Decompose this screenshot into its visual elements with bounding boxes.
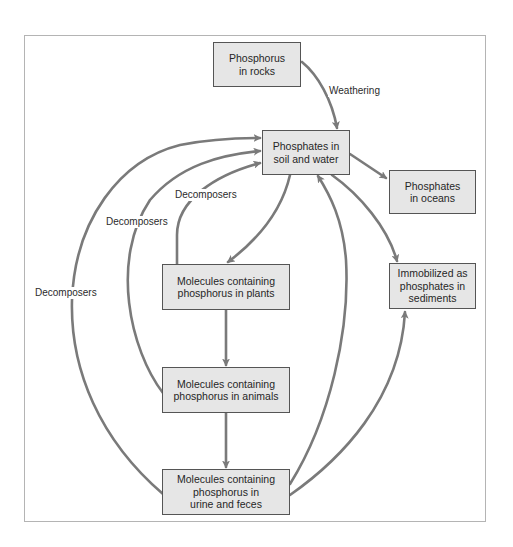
arrow-urine-to-sediments [290, 312, 405, 495]
label-decomposers-animals: Decomposers [105, 216, 169, 228]
arrow-soil-to-oceans [350, 154, 386, 178]
arrow-urine-to-soil [290, 176, 347, 484]
label-decomposers-plants: Decomposers [174, 189, 238, 201]
arrow-plants-decomposers [177, 163, 260, 264]
node-phosphates-in-soil-and-water: Phosphates in soil and water [262, 130, 350, 175]
node-phosphorus-in-rocks: Phosphorus in rocks [213, 42, 301, 87]
label-decomposers-urine: Decomposers [34, 287, 98, 299]
arrow-soil-to-sediments [332, 175, 397, 261]
node-phosphorus-in-plants: Molecules containing phosphorus in plant… [162, 264, 290, 310]
node-phosphates-in-oceans: Phosphates in oceans [389, 170, 476, 214]
node-phosphorus-in-animals: Molecules containing phosphorus in anima… [162, 367, 290, 413]
node-phosphorus-in-urine-and-feces: Molecules containing phosphorus in urine… [162, 469, 290, 515]
label-weathering: Weathering [328, 85, 381, 97]
node-immobilized-sediments: Immobilized as phosphates in sediments [389, 263, 476, 309]
